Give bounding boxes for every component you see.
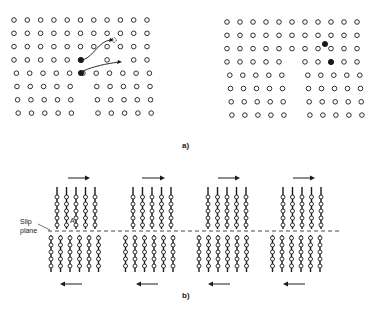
atom-a-label: A [70,216,75,225]
panel-b-label: b) [182,291,190,300]
slip-plane-label: Slip plane [20,217,37,235]
figure-canvas [0,0,376,315]
slip-label-line1: Slip [20,218,32,225]
panel-a-label: a) [182,141,189,150]
slip-label-line2: plane [20,227,37,234]
